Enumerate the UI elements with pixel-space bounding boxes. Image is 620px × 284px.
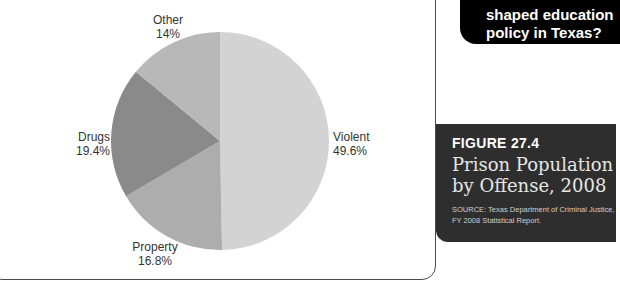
figure-title-line-2: by Offense, 2008: [452, 175, 616, 196]
label-violent-value: 49.6%: [333, 144, 369, 158]
label-other-name: Other: [148, 13, 188, 27]
label-other: Other 14%: [148, 13, 188, 41]
figure-source: SOURCE: Texas Department of Criminal Jus…: [452, 204, 616, 226]
label-drugs-name: Drugs: [60, 130, 110, 144]
label-property-name: Property: [126, 240, 184, 254]
question-line-1: shaped education: [486, 6, 620, 24]
label-property: Property 16.8%: [126, 240, 184, 268]
label-violent: Violent 49.6%: [333, 130, 369, 158]
figure-caption: FIGURE 27.4 Prison Population by Offense…: [436, 124, 616, 242]
label-drugs: Drugs 19.4%: [60, 130, 110, 158]
label-violent-name: Violent: [333, 130, 369, 144]
question-box: shaped education policy in Texas?: [460, 0, 620, 44]
figure-source-line-2: FY 2008 Statistical Report.: [452, 215, 616, 226]
figure-title: Prison Population by Offense, 2008: [452, 154, 616, 196]
figure-number: FIGURE 27.4: [452, 135, 616, 151]
label-property-value: 16.8%: [126, 254, 184, 268]
label-other-value: 14%: [148, 27, 188, 41]
pie-slice-violent: [220, 32, 329, 250]
figure-source-line-1: SOURCE: Texas Department of Criminal Jus…: [452, 204, 616, 215]
pie-slices: [111, 32, 329, 250]
label-drugs-value: 19.4%: [60, 144, 110, 158]
question-line-2: policy in Texas?: [486, 24, 620, 42]
figure-title-line-1: Prison Population: [452, 154, 616, 175]
